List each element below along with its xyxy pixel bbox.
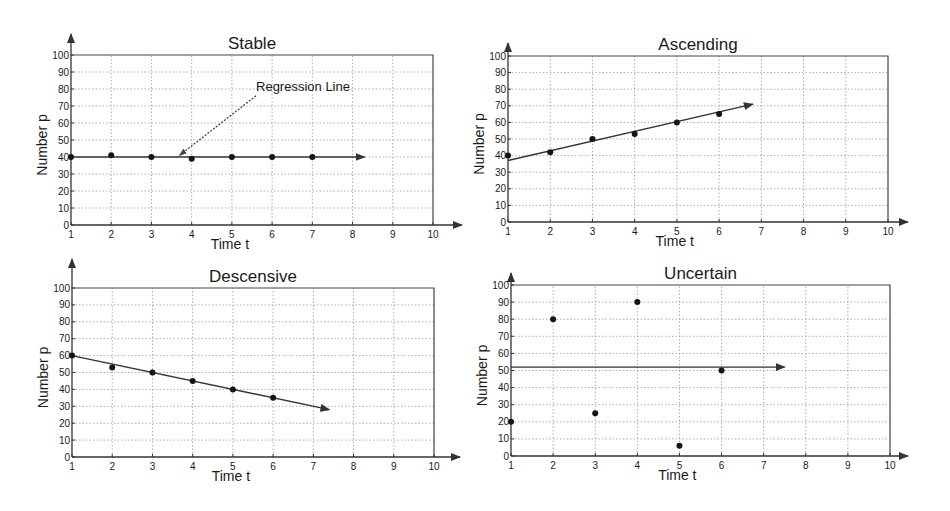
y-tick-label: 90 xyxy=(59,299,71,310)
data-point xyxy=(674,119,680,125)
y-tick-label: 70 xyxy=(498,331,510,342)
x-tick-label: 10 xyxy=(882,226,894,237)
x-tick-label: 3 xyxy=(150,461,156,472)
data-point xyxy=(589,136,595,142)
x-tick-label: 8 xyxy=(801,226,807,237)
y-tick-label: 20 xyxy=(59,418,71,429)
y-tick-label: 30 xyxy=(59,401,71,412)
y-tick-label: 20 xyxy=(495,183,507,194)
data-point xyxy=(716,111,722,117)
x-tick-label: 3 xyxy=(149,229,155,240)
chart-panel-ascending: 123456789100102030405060708090100Ascendi… xyxy=(471,35,908,249)
y-tick-label: 80 xyxy=(58,84,70,95)
y-tick-label: 70 xyxy=(59,333,71,344)
data-point xyxy=(505,153,511,159)
data-point xyxy=(676,443,682,449)
y-axis-label: Number p xyxy=(471,113,487,175)
data-point xyxy=(309,154,315,160)
x-axis-label: Time t xyxy=(212,468,250,484)
x-tick-label: 7 xyxy=(759,226,765,237)
y-tick-label: 40 xyxy=(498,382,510,393)
x-tick-label: 6 xyxy=(269,229,275,240)
chart-title: Uncertain xyxy=(664,264,737,283)
x-tick-label: 4 xyxy=(632,226,638,237)
y-tick-label: 10 xyxy=(495,200,507,211)
y-tick-label: 70 xyxy=(495,100,507,111)
y-tick-label: 70 xyxy=(58,101,70,112)
x-tick-label: 10 xyxy=(428,461,440,472)
plot-frame xyxy=(72,288,434,457)
data-point xyxy=(634,299,640,305)
y-tick-label: 40 xyxy=(495,150,507,161)
y-tick-label: 20 xyxy=(58,186,70,197)
x-tick-label: 7 xyxy=(761,460,767,471)
gridlines xyxy=(71,55,433,225)
y-tick-label: 60 xyxy=(495,117,507,128)
x-tick-label: 7 xyxy=(311,461,317,472)
x-tick-label: 1 xyxy=(68,229,74,240)
y-tick-label: 10 xyxy=(58,203,70,214)
x-tick-label: 2 xyxy=(108,229,114,240)
y-tick-label: 0 xyxy=(500,217,506,228)
gridlines xyxy=(72,288,434,457)
x-axis-label: Time t xyxy=(211,236,249,252)
data-point xyxy=(68,154,74,160)
gridlines xyxy=(508,56,888,222)
y-tick-label: 0 xyxy=(503,451,509,462)
y-tick-label: 60 xyxy=(59,350,71,361)
chart-title: Ascending xyxy=(658,35,737,54)
y-tick-label: 100 xyxy=(53,283,70,294)
chart-title: Descensive xyxy=(209,267,297,286)
y-tick-label: 80 xyxy=(59,316,71,327)
x-tick-label: 4 xyxy=(190,461,196,472)
y-tick-label: 90 xyxy=(58,67,70,78)
y-tick-label: 100 xyxy=(52,50,69,61)
chart-title: Stable xyxy=(228,34,276,53)
y-tick-label: 30 xyxy=(495,167,507,178)
annotation-label: Regression Line xyxy=(256,79,350,94)
chart-panel-descensive: 123456789100102030405060708090100Descens… xyxy=(35,259,460,484)
data-point xyxy=(550,316,556,322)
data-point xyxy=(269,154,275,160)
chart-panel-uncertain: 123456789100102030405060708090100Uncerta… xyxy=(474,264,908,483)
data-point xyxy=(190,378,196,384)
data-point xyxy=(547,149,553,155)
y-tick-label: 50 xyxy=(495,134,507,145)
y-tick-label: 0 xyxy=(63,220,69,231)
y-tick-label: 50 xyxy=(498,365,510,376)
y-axis-label: Number p xyxy=(34,114,50,176)
x-tick-label: 9 xyxy=(391,461,397,472)
y-tick-label: 60 xyxy=(58,118,70,129)
x-tick-label: 1 xyxy=(508,460,514,471)
x-tick-label: 4 xyxy=(635,460,641,471)
x-tick-label: 8 xyxy=(351,461,357,472)
x-tick-label: 2 xyxy=(547,226,553,237)
x-tick-label: 2 xyxy=(109,461,115,472)
x-tick-label: 9 xyxy=(390,229,396,240)
figure-canvas: 123456789100102030405060708090100StableT… xyxy=(0,0,950,511)
x-tick-label: 10 xyxy=(427,229,439,240)
data-point xyxy=(109,364,115,370)
data-point xyxy=(270,395,276,401)
data-point xyxy=(632,131,638,137)
data-point xyxy=(508,419,514,425)
y-tick-label: 50 xyxy=(59,367,71,378)
y-tick-label: 90 xyxy=(495,67,507,78)
y-tick-label: 80 xyxy=(498,314,510,325)
y-tick-label: 60 xyxy=(498,348,510,359)
data-points xyxy=(508,299,725,449)
x-axis-label: Time t xyxy=(658,467,696,483)
gridlines xyxy=(511,285,890,456)
y-tick-label: 10 xyxy=(498,433,510,444)
regression-line xyxy=(508,104,753,160)
y-tick-label: 90 xyxy=(498,297,510,308)
x-tick-label: 10 xyxy=(884,460,896,471)
x-tick-label: 6 xyxy=(719,460,725,471)
data-point xyxy=(149,370,155,376)
y-tick-label: 30 xyxy=(58,169,70,180)
x-tick-label: 2 xyxy=(550,460,556,471)
y-axis-label: Number p xyxy=(35,347,51,409)
x-tick-label: 9 xyxy=(843,226,849,237)
chart-panel-stable: 123456789100102030405060708090100StableT… xyxy=(34,34,462,252)
x-tick-label: 9 xyxy=(845,460,851,471)
